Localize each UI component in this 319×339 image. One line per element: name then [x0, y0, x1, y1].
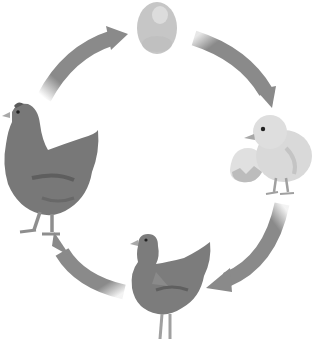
arrow-chick-to-young-hen	[206, 204, 282, 292]
arrow-hen-to-egg	[44, 26, 128, 98]
stage-egg	[136, 0, 178, 58]
adult-hen-icon	[2, 102, 98, 234]
arrow-young-hen-to-adult-hen	[52, 232, 124, 292]
arrow-egg-to-chick	[194, 38, 276, 108]
stage-chick	[228, 108, 318, 198]
stage-adult-hen	[2, 100, 102, 240]
young-hen-icon	[130, 234, 210, 339]
egg-icon	[137, 2, 177, 54]
stage-young-hen	[126, 228, 216, 339]
